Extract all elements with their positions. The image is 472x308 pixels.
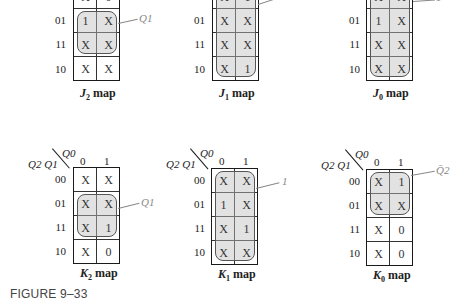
column-variable-label: Q0 bbox=[62, 147, 75, 159]
group-term-label: 1 bbox=[436, 0, 442, 3]
kmap-cell: X bbox=[74, 57, 97, 81]
col-label-0: 0 bbox=[374, 156, 380, 168]
kmap-cell: 1 bbox=[97, 216, 120, 240]
row-label-11: 11 bbox=[185, 38, 205, 50]
kmap-cell: X bbox=[390, 194, 413, 218]
map-title: K2 map bbox=[80, 266, 118, 282]
row-label-11: 11 bbox=[185, 222, 205, 234]
kmap-cell: X bbox=[367, 57, 390, 81]
kmap-cell: 1 bbox=[236, 0, 259, 9]
map-title-letter: K bbox=[80, 266, 88, 280]
row-label-01: 01 bbox=[185, 198, 205, 210]
kmap-cell: X bbox=[390, 9, 413, 33]
group-term-label: Q̄2 bbox=[436, 164, 449, 176]
row-label-00: 00 bbox=[185, 174, 205, 186]
kmap-cell: X bbox=[74, 33, 97, 57]
callout-line bbox=[411, 171, 435, 176]
kmap-cell: X bbox=[236, 33, 259, 57]
kmap-cell: 0 bbox=[390, 242, 413, 266]
kmap-cell: X bbox=[74, 240, 97, 264]
row-label-11: 11 bbox=[46, 221, 66, 233]
map-title-suffix: map bbox=[383, 86, 409, 100]
kmap-cell: X bbox=[97, 57, 120, 81]
map-title-suffix: map bbox=[92, 266, 118, 280]
kmap-cell: X bbox=[367, 218, 390, 242]
row-label-01: 01 bbox=[46, 197, 66, 209]
kmap-cell: 0 bbox=[97, 240, 120, 264]
map-title-letter: K bbox=[373, 268, 381, 282]
kmap-cell: X bbox=[212, 241, 235, 265]
col-label-1: 1 bbox=[243, 155, 249, 167]
row-label-01: 01 bbox=[185, 14, 205, 26]
callout-line bbox=[258, 0, 287, 5]
col-label-0: 0 bbox=[80, 155, 86, 167]
map-title: J0 map bbox=[373, 86, 409, 102]
kmap-cell: X bbox=[213, 33, 236, 57]
col-label-0: 0 bbox=[219, 155, 225, 167]
map-title-suffix: map bbox=[90, 86, 116, 100]
kmap-cell: X bbox=[97, 9, 120, 33]
callout-line bbox=[118, 203, 140, 209]
map-title-letter: K bbox=[218, 267, 226, 281]
row-label-10: 10 bbox=[340, 63, 360, 75]
group-term-label: 1 bbox=[289, 0, 295, 2]
row-label-00: 00 bbox=[340, 175, 360, 187]
map-title-suffix: map bbox=[229, 86, 255, 100]
kmap-grid: X X X X X 1 X 0 bbox=[73, 167, 120, 264]
map-title: J2 map bbox=[80, 86, 116, 102]
kmap-cell: X bbox=[390, 33, 413, 57]
kmap-cell: 0 bbox=[97, 0, 120, 9]
map-title-suffix: map bbox=[230, 267, 256, 281]
kmap-cell: X bbox=[213, 57, 236, 81]
kmap-cell: X bbox=[213, 0, 236, 9]
row-variable-label: Q2 Q1 bbox=[166, 158, 196, 170]
kmap-cell: 1 bbox=[236, 57, 259, 81]
map-title: J1 map bbox=[219, 86, 255, 102]
kmap-cell: X bbox=[235, 241, 258, 265]
kmap-cell: X bbox=[97, 168, 120, 192]
callout-line bbox=[413, 0, 435, 2]
row-label-10: 10 bbox=[340, 247, 360, 259]
kmap-grid: X 1 X X X X X 1 bbox=[212, 0, 259, 81]
row-label-10: 10 bbox=[46, 63, 66, 75]
group-term-label: 1 bbox=[282, 175, 288, 187]
kmap-cell: X bbox=[367, 0, 390, 9]
group-term-label: Q1 bbox=[141, 196, 154, 208]
col-label-1: 1 bbox=[104, 155, 110, 167]
kmap-cell: X bbox=[74, 192, 97, 216]
kmap-cell: 1 bbox=[235, 217, 258, 241]
row-label-10: 10 bbox=[185, 63, 205, 75]
kmap-cell: 0 bbox=[390, 218, 413, 242]
map-title-suffix: map bbox=[385, 268, 411, 282]
column-variable-label: Q0 bbox=[200, 147, 213, 159]
kmap-grid: X X 1 X X X X X bbox=[366, 0, 413, 81]
row-variable-label: Q2 Q1 bbox=[321, 159, 351, 171]
kmap-cell: 1 bbox=[212, 193, 235, 217]
kmap-cell: X bbox=[212, 169, 235, 193]
kmap-cell: 1 bbox=[367, 9, 390, 33]
callout-line bbox=[256, 182, 280, 189]
kmap-cell: X bbox=[367, 194, 390, 218]
kmap-cell: X bbox=[367, 33, 390, 57]
row-label-01: 01 bbox=[340, 14, 360, 26]
group-term-label: Q1 bbox=[139, 12, 152, 24]
kmap-cell: X bbox=[97, 33, 120, 57]
row-label-01: 01 bbox=[340, 199, 360, 211]
row-label-11: 11 bbox=[46, 38, 66, 50]
kmap-cell: X bbox=[367, 170, 390, 194]
kmap-cell: X bbox=[212, 217, 235, 241]
row-label-10: 10 bbox=[46, 245, 66, 257]
kmap-cell: X bbox=[390, 0, 413, 9]
kmap-cell: 1 bbox=[390, 170, 413, 194]
map-title: K1 map bbox=[218, 267, 256, 283]
kmap-cell: X bbox=[235, 193, 258, 217]
row-label-11: 11 bbox=[340, 223, 360, 235]
kmap-cell: X bbox=[74, 216, 97, 240]
kmap-cell: X bbox=[74, 168, 97, 192]
kmap-cell: X bbox=[97, 192, 120, 216]
kmap-grid: X 1 X X X 0 X 0 bbox=[366, 169, 413, 266]
kmap-grid: X X 1 X X 1 X X bbox=[211, 168, 258, 265]
row-label-01: 01 bbox=[46, 14, 66, 26]
col-label-1: 1 bbox=[398, 156, 404, 168]
kmap-cell: X bbox=[213, 9, 236, 33]
